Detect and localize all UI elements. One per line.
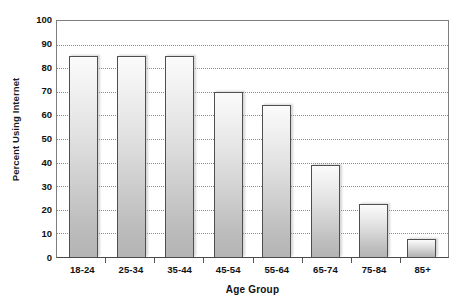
bar-85+[interactable] — [407, 239, 436, 257]
x-tick-mark — [302, 258, 303, 263]
y-tick-label: 30 — [26, 182, 52, 192]
y-tick-label: 40 — [26, 158, 52, 168]
y-axis-tick-labels: 0102030405060708090100 — [26, 20, 52, 258]
bar-55-64[interactable] — [262, 105, 291, 257]
bar-35-44[interactable] — [165, 56, 194, 257]
bar-slot — [301, 21, 349, 257]
x-tick-mark — [105, 258, 106, 263]
plot-area — [56, 20, 449, 258]
y-tick-label: 80 — [26, 63, 52, 73]
bar-series — [57, 21, 448, 257]
x-tick-mark — [351, 258, 352, 263]
bar-chart: Percent Using Internet 01020304050607080… — [0, 0, 467, 308]
x-tick-mark — [154, 258, 155, 263]
bar-75-84[interactable] — [359, 204, 388, 257]
y-tick-label: 70 — [26, 86, 52, 96]
y-tick-label: 10 — [26, 229, 52, 239]
x-tick-label-18-24: 18-24 — [58, 264, 107, 275]
y-tick-label: 90 — [26, 39, 52, 49]
y-tick-label: 100 — [26, 15, 52, 25]
y-tick-label: 60 — [26, 110, 52, 120]
x-tick-label-25-34: 25-34 — [107, 264, 156, 275]
bar-slot — [253, 21, 301, 257]
x-axis-title: Age Group — [56, 284, 449, 295]
bar-slot — [349, 21, 397, 257]
bar-18-24[interactable] — [69, 56, 98, 257]
bar-slot — [59, 21, 107, 257]
y-axis-title-text: Percent Using Internet — [11, 77, 22, 181]
x-tick-label-75-84: 75-84 — [350, 264, 399, 275]
x-tick-label-45-54: 45-54 — [204, 264, 253, 275]
y-axis-title: Percent Using Internet — [6, 0, 26, 258]
x-tick-mark — [203, 258, 204, 263]
x-tick-label-55-64: 55-64 — [253, 264, 302, 275]
x-tick-label-85+: 85+ — [398, 264, 447, 275]
x-tick-label-35-44: 35-44 — [155, 264, 204, 275]
x-axis-tick-labels: 18-2425-3435-4445-5455-6465-7475-8485+ — [56, 264, 449, 280]
bar-slot — [204, 21, 252, 257]
bar-25-34[interactable] — [117, 56, 146, 257]
x-tick-mark — [400, 258, 401, 263]
x-tick-mark — [253, 258, 254, 263]
y-tick-label: 50 — [26, 134, 52, 144]
y-tick-label: 0 — [26, 253, 52, 263]
y-tick-label: 20 — [26, 205, 52, 215]
bar-slot — [156, 21, 204, 257]
x-tick-label-65-74: 65-74 — [301, 264, 350, 275]
bar-45-54[interactable] — [214, 92, 243, 257]
bar-65-74[interactable] — [311, 165, 340, 257]
bar-slot — [107, 21, 155, 257]
bar-slot — [398, 21, 446, 257]
